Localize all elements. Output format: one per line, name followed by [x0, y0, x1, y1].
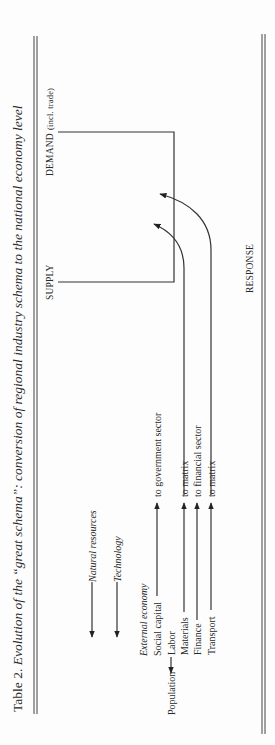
schema-diagram: Table 2. Evolution of the “great schema”…	[0, 0, 275, 745]
social-capital-label: Social capital	[152, 602, 163, 656]
demand-text: DEMAND	[45, 133, 55, 176]
supply-demand-connector	[58, 132, 174, 282]
transport-target: to matrix	[206, 461, 217, 497]
transport-label: Transport	[206, 616, 217, 655]
table-caption: Table 2. Evolution of the “great schema”…	[10, 105, 25, 712]
supply-label: SUPPLY	[45, 264, 55, 300]
transport-feedback-arrow	[160, 194, 211, 495]
materials-target: to matrix	[179, 461, 190, 497]
caption-title: Evolution of the “great schema”: convers…	[10, 105, 25, 666]
technology-label: Technology	[112, 536, 123, 582]
external-economy-label: External economy	[138, 583, 149, 657]
demand-label: DEMAND(incl. trade)	[45, 88, 55, 176]
natural-resources-label: Natural resources	[87, 510, 98, 583]
demand-note: (incl. trade)	[45, 88, 55, 130]
caption-prefix: Table 2.	[10, 665, 25, 712]
population-label: Population	[166, 672, 177, 715]
labor-label: Labor	[166, 630, 177, 655]
social-capital-target: to government sector	[152, 412, 163, 497]
response-label: RESPONSE	[245, 244, 255, 293]
finance-target: to financial sector	[192, 425, 203, 497]
materials-label: Materials	[179, 617, 190, 655]
document-page: Table 2. Evolution of the “great schema”…	[0, 0, 275, 745]
finance-label: Finance	[192, 623, 203, 655]
